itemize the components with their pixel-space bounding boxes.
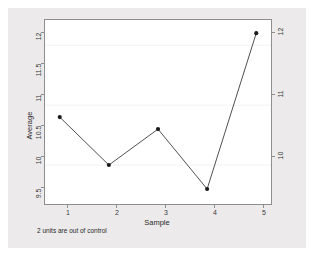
data-series-layer: [45, 20, 271, 204]
x-axis-tick-mark: [67, 205, 68, 208]
x-axis-tick-mark: [165, 205, 166, 208]
x-axis-tick-mark: [214, 205, 215, 208]
x-axis-tick-label: 3: [164, 209, 168, 216]
data-point: [254, 31, 258, 35]
y-axis-left-tick-label: 10.5: [35, 126, 42, 142]
y-axis-right-tick-mark: [272, 156, 275, 157]
y-axis-title: Average: [25, 80, 34, 140]
x-axis-title: Sample: [134, 218, 180, 227]
out-of-control-note: 2 units are out of control: [37, 227, 107, 234]
y-axis-left-tick-label: 11.5: [35, 64, 42, 80]
y-axis-right-tick-mark: [272, 32, 275, 33]
y-axis-right-tick-label: 10: [277, 144, 284, 160]
y-axis-right-tick-label: 12: [277, 20, 284, 36]
y-axis-right-tick-mark: [272, 94, 275, 95]
x-axis-tick-label: 4: [213, 209, 217, 216]
y-axis-left-tick-label: 9.5: [35, 189, 42, 205]
series-line: [60, 33, 257, 189]
y-axis-left-tick-label: 11: [35, 95, 42, 111]
x-axis-tick-label: 5: [262, 209, 266, 216]
x-axis-tick-mark: [263, 205, 264, 208]
series-markers: [58, 31, 259, 191]
data-point: [107, 163, 111, 167]
data-point: [205, 187, 209, 191]
y-axis-right-tick-label: 11: [277, 82, 284, 98]
y-axis-left-tick-label: 10: [35, 157, 42, 173]
x-axis-tick-label: 1: [66, 209, 70, 216]
x-axis-tick-mark: [116, 205, 117, 208]
data-point: [58, 115, 62, 119]
plot-panel: [44, 19, 272, 205]
y-axis-left-tick-label: 12: [35, 33, 42, 49]
control-chart-figure: Average 9.5 10 10.5 11 11.5 12 10 11 12 …: [0, 0, 314, 256]
data-point: [156, 127, 160, 131]
x-axis-tick-label: 2: [115, 209, 119, 216]
